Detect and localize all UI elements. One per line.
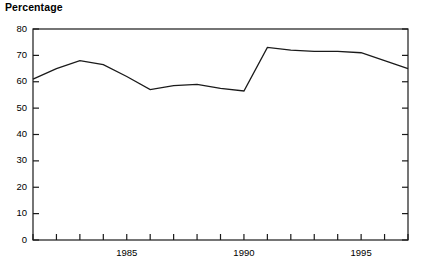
y-tick-label: 70 xyxy=(3,49,27,60)
line-chart: Percentage 01020304050607080 19851990199… xyxy=(0,0,430,267)
y-tick-label: 50 xyxy=(3,102,27,113)
plot-area xyxy=(0,0,430,267)
y-tick-label: 20 xyxy=(3,181,27,192)
x-tick-label: 1990 xyxy=(224,247,264,258)
x-tick-label: 1985 xyxy=(107,247,147,258)
y-tick-label: 40 xyxy=(3,128,27,139)
y-tick-label: 80 xyxy=(3,23,27,34)
y-tick-label: 10 xyxy=(3,207,27,218)
y-tick-label: 60 xyxy=(3,75,27,86)
y-tick-label: 30 xyxy=(3,154,27,165)
x-tick-label: 1995 xyxy=(341,247,381,258)
y-tick-label: 0 xyxy=(3,234,27,245)
plot-frame xyxy=(33,29,408,240)
